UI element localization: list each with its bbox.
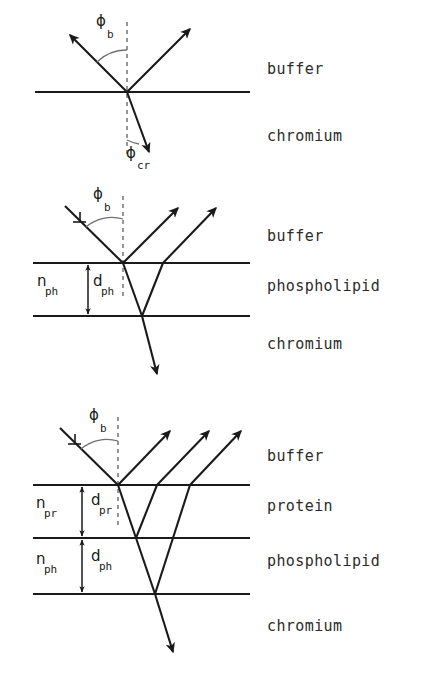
phi-b-subscript: b (104, 201, 111, 214)
layer-label-buffer: buffer (267, 447, 324, 465)
figure-background (0, 0, 429, 681)
n-ph-subscript: ph (44, 563, 57, 576)
layer-label-chromium: chromium (267, 127, 342, 145)
n-ph-subscript: ph (45, 285, 58, 298)
optical-ray-diagram-figure: ϕ b ϕ cr buffer chromium ϕ b n ph d ph b… (0, 0, 429, 681)
phi-b-symbol: ϕ (96, 12, 106, 30)
phi-b-subscript: b (100, 422, 107, 435)
layer-label-phospholipid: phospholipid (267, 277, 380, 295)
layer-label-buffer: buffer (267, 60, 324, 78)
d-pr-subscript: pr (99, 504, 113, 517)
n-pr-subscript: pr (44, 507, 58, 520)
d-ph-subscript: ph (99, 560, 112, 573)
phi-b-symbol: ϕ (93, 185, 103, 203)
layer-label-protein: protein (267, 497, 333, 515)
d-ph-subscript: ph (101, 285, 114, 298)
layer-label-phospholipid: phospholipid (267, 552, 380, 570)
phi-cr-symbol: ϕ (126, 144, 136, 162)
layer-label-chromium: chromium (267, 617, 342, 635)
layer-label-buffer: buffer (267, 227, 324, 245)
layer-label-chromium: chromium (267, 335, 342, 353)
phi-b-subscript: b (107, 28, 114, 41)
phi-b-symbol: ϕ (89, 406, 99, 424)
phi-cr-subscript: cr (137, 159, 151, 172)
